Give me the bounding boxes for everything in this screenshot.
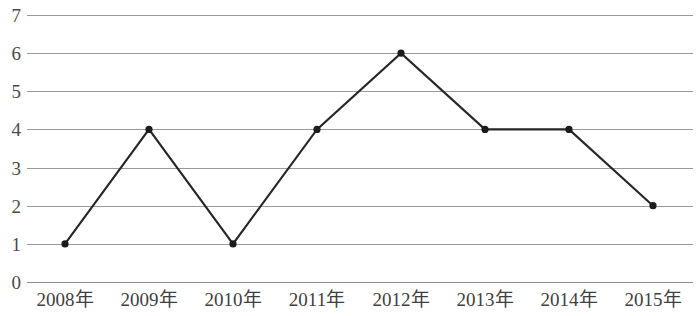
plot-area <box>27 15 693 282</box>
data-point <box>229 240 236 247</box>
y-axis-tick-labels: 76543210 <box>0 15 21 282</box>
data-point <box>397 50 404 57</box>
series-svg <box>27 15 693 282</box>
x-tick-label-4: 2012年 <box>355 288 447 312</box>
y-tick-label-5: 5 <box>0 82 21 101</box>
y-tick-label-7: 7 <box>0 6 21 25</box>
data-point <box>313 126 320 133</box>
series-markers <box>61 50 656 248</box>
data-point <box>145 126 152 133</box>
data-point <box>565 126 572 133</box>
x-tick-label-6: 2014年 <box>523 288 615 312</box>
line-chart: 76543210 2008年2009年2010年2011年2012年2013年2… <box>0 0 698 316</box>
gridline-0 <box>27 282 693 283</box>
x-tick-label-5: 2013年 <box>439 288 531 312</box>
y-tick-label-3: 3 <box>0 158 21 177</box>
data-point <box>649 202 656 209</box>
series-line <box>65 53 653 244</box>
data-point <box>61 240 68 247</box>
y-tick-label-2: 2 <box>0 196 21 215</box>
x-tick-label-2: 2010年 <box>187 288 279 312</box>
y-tick-label-6: 6 <box>0 44 21 63</box>
data-point <box>481 126 488 133</box>
x-tick-label-1: 2009年 <box>103 288 195 312</box>
y-tick-label-4: 4 <box>0 120 21 139</box>
x-tick-label-3: 2011年 <box>271 288 363 312</box>
x-tick-label-7: 2015年 <box>607 288 698 312</box>
x-tick-label-0: 2008年 <box>19 288 111 312</box>
x-axis-tick-labels: 2008年2009年2010年2011年2012年2013年2014年2015年 <box>0 288 698 316</box>
y-tick-label-1: 1 <box>0 234 21 253</box>
